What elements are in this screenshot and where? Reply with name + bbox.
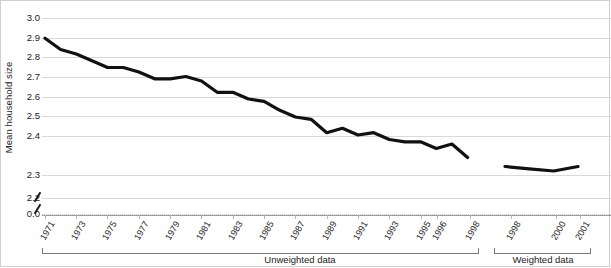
x-axis-tick-label: 1998 xyxy=(464,220,482,242)
y-axis-tick-label: 2.3 xyxy=(14,170,40,180)
x-axis-tick xyxy=(233,215,234,219)
data-series-svg xyxy=(42,0,611,215)
x-axis-tick xyxy=(76,215,77,219)
x-axis-tick xyxy=(358,215,359,219)
x-axis-tick xyxy=(295,215,296,219)
x-axis-tick-label: 1979 xyxy=(164,220,182,242)
x-axis-tick-label: 1971 xyxy=(39,220,57,242)
x-axis-tick-label: 2000 xyxy=(550,220,568,242)
y-axis-tick-label: 2.8 xyxy=(14,52,40,62)
x-axis-tick-label: 1981 xyxy=(195,220,213,242)
x-axis-tick xyxy=(437,215,438,219)
x-axis-tick xyxy=(264,215,265,219)
x-axis-tick-label: 1989 xyxy=(321,220,339,242)
x-axis-tick-label: 1996 xyxy=(431,220,449,242)
y-axis-tick-label: 2.6 xyxy=(14,92,40,102)
x-axis-tick xyxy=(421,215,422,219)
group-label: Unweighted data xyxy=(240,254,360,265)
x-axis-tick-label: 1995 xyxy=(415,220,433,242)
x-axis-tick-label: 1998 xyxy=(505,220,523,242)
line-weighted-data xyxy=(505,167,578,172)
x-axis-tick xyxy=(45,215,46,219)
x-axis-tick-label: 1983 xyxy=(227,220,245,242)
x-axis-tick xyxy=(327,215,328,219)
x-axis-tick-label: 1991 xyxy=(352,220,370,242)
x-axis-tick xyxy=(389,215,390,219)
x-axis-tick xyxy=(580,215,581,219)
y-axis-tick-labels: 3.02.92.82.72.62.52.42.32.20.0 xyxy=(12,0,40,268)
x-axis-tick xyxy=(201,215,202,219)
line-unweighted-data xyxy=(45,38,468,157)
group-label: Weighted data xyxy=(483,254,603,265)
x-axis-tick-label: 1993 xyxy=(383,220,401,242)
chart-container: Mean household size 3.02.92.82.72.62.52.… xyxy=(0,0,611,268)
x-axis-tick xyxy=(470,215,471,219)
x-axis-tick xyxy=(556,215,557,219)
x-axis-tick-label: 1987 xyxy=(289,220,307,242)
y-axis-tick-label: 2.4 xyxy=(14,131,40,141)
x-axis-tick xyxy=(170,215,171,219)
plot-area xyxy=(42,0,611,215)
x-axis-tick-label: 1977 xyxy=(133,220,151,242)
y-axis-tick-label: 2.5 xyxy=(14,111,40,121)
x-axis-tick xyxy=(139,215,140,219)
x-axis-tick-label: 1985 xyxy=(258,220,276,242)
x-axis-tick xyxy=(107,215,108,219)
x-axis-tick-label: 2001 xyxy=(574,220,592,242)
x-axis-tick-label: 1973 xyxy=(70,220,88,242)
y-axis-tick-label: 2.7 xyxy=(14,72,40,82)
x-axis-tick-label: 1975 xyxy=(101,220,119,242)
y-axis-tick-label: 3.0 xyxy=(14,13,40,23)
y-axis-tick-label: 2.9 xyxy=(14,33,40,43)
x-axis-tick xyxy=(511,215,512,219)
